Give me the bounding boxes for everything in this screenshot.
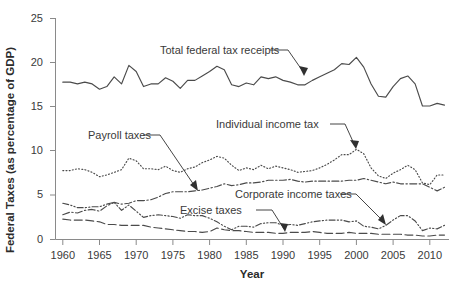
series-line-total-federal-tax-receipts: [63, 57, 445, 106]
x-tick-1980: 1980: [197, 249, 221, 261]
leader-excise: [256, 210, 284, 229]
x-tick-1960: 1960: [51, 249, 75, 261]
y-tick-10: 10: [31, 144, 43, 156]
annotation-corporate-income-taxes: Corporate income taxes: [235, 188, 352, 200]
y-tick-0: 0: [37, 233, 43, 245]
arrowhead-excise: [280, 223, 288, 232]
series-line-corporate-income-taxes: [63, 202, 445, 230]
x-tick-marks: [63, 240, 430, 246]
annotation-excise-taxes: Excise taxes: [180, 204, 242, 216]
y-tick-labels: 25 20 15 10 5 0: [31, 12, 43, 245]
x-tick-2005: 2005: [381, 249, 405, 261]
y-axis-title: Federal Taxes (as percentage of GDP): [4, 47, 16, 253]
y-tick-20: 20: [31, 56, 43, 68]
series-layer: [63, 57, 445, 236]
x-tick-1965: 1965: [87, 249, 111, 261]
x-axis-title: Year: [240, 268, 265, 280]
x-tick-1975: 1975: [161, 249, 185, 261]
x-tick-labels: 1960 1965 1970 1975 1980 1985 1990 1995 …: [51, 249, 442, 261]
x-tick-2010: 2010: [418, 249, 442, 261]
x-tick-1995: 1995: [307, 249, 331, 261]
y-tick-25: 25: [31, 12, 43, 24]
y-tick-15: 15: [31, 100, 43, 112]
y-tick-5: 5: [37, 188, 43, 200]
annotation-payroll-taxes: Payroll taxes: [88, 129, 151, 141]
leader-individual: [330, 124, 355, 146]
arrowhead-individual: [350, 140, 359, 149]
annotation-total-federal-tax-receipts: Total federal tax receipts: [160, 44, 280, 56]
series-line-individual-income-tax: [63, 149, 445, 184]
chart-figure: Federal Taxes (as percentage of GDP) 25 …: [0, 0, 461, 287]
arrowhead-corporate: [378, 214, 386, 225]
x-tick-1990: 1990: [271, 249, 295, 261]
x-tick-1985: 1985: [234, 249, 258, 261]
x-tick-1970: 1970: [124, 249, 148, 261]
x-tick-2000: 2000: [344, 249, 368, 261]
y-tick-marks: [50, 19, 56, 240]
leader-payroll: [143, 135, 196, 188]
annotation-individual-income-tax: Individual income tax: [216, 118, 319, 130]
federal-taxes-line-chart: Federal Taxes (as percentage of GDP) 25 …: [0, 0, 461, 287]
arrowhead-total: [299, 66, 308, 76]
